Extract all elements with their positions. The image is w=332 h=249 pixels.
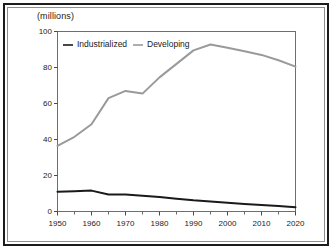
x-axis-tick-label: 1970 bbox=[111, 220, 141, 228]
y-axis-tick-label: 20 bbox=[30, 172, 52, 180]
legend-label-developing: Developing bbox=[147, 40, 190, 49]
series-line-developing bbox=[58, 44, 296, 145]
legend-label-industrialized: Industrialized bbox=[77, 40, 127, 49]
chart-figure: (millions) 02040608010019501960197019801… bbox=[0, 0, 332, 249]
x-axis-tick-label: 2000 bbox=[213, 220, 243, 228]
x-axis-tick-label: 1980 bbox=[145, 220, 175, 228]
x-axis-tick-label: 2010 bbox=[247, 220, 277, 228]
y-axis-tick-label: 100 bbox=[30, 28, 52, 36]
x-axis-tick-label: 1990 bbox=[179, 220, 209, 228]
x-axis-tick-label: 2020 bbox=[281, 220, 311, 228]
y-axis-tick-label: 40 bbox=[30, 136, 52, 144]
x-axis-tick-label: 1960 bbox=[77, 220, 107, 228]
series-line-industrialized bbox=[58, 191, 296, 208]
y-axis-tick-label: 0 bbox=[30, 208, 52, 216]
x-axis-tick-label: 1950 bbox=[43, 220, 73, 228]
y-axis-tick-label: 60 bbox=[30, 100, 52, 108]
y-axis-tick-label: 80 bbox=[30, 64, 52, 72]
